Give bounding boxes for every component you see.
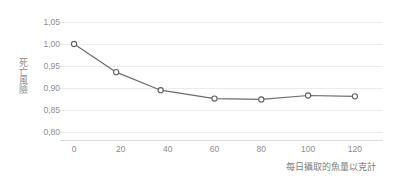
x-axis-tick-label: 120: [348, 145, 362, 154]
x-axis-tick-label: 60: [210, 145, 219, 154]
y-axis-title: 死亡風險: [14, 58, 28, 94]
x-axis-tick-label: 40: [163, 145, 172, 154]
line-chart: 0,800,850,900,951,001,05 020406080100120…: [0, 0, 402, 181]
x-axis-tick-label: 80: [257, 145, 266, 154]
x-axis-title: 每日攝取的魚量以克計: [286, 162, 376, 173]
x-axis-tick-labels: 020406080100120: [0, 0, 402, 181]
x-axis-tick-label: 100: [301, 145, 315, 154]
x-axis-tick-label: 0: [72, 145, 77, 154]
x-axis-tick-label: 20: [116, 145, 125, 154]
